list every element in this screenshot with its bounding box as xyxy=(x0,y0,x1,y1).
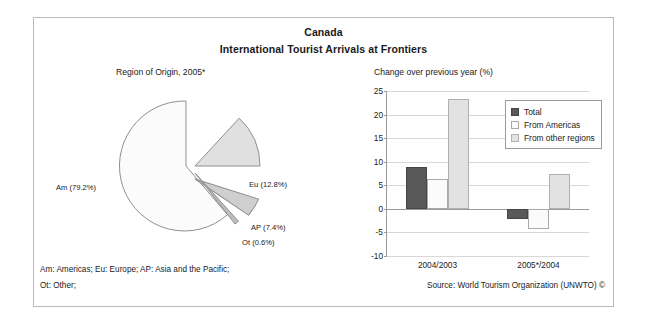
pie-chart-subtitle: Region of Origin, 2005* xyxy=(116,67,205,77)
pie-label-ap: AP (7.4%) xyxy=(251,223,285,232)
y-axis-tick-mark-20 xyxy=(384,115,387,116)
y-axis-tick-label-0: 0 xyxy=(378,204,383,214)
bar-chart: 2520151050-5-10 2004/20032005*/2004 Tota… xyxy=(353,91,608,276)
y-axis-tick-mark-15 xyxy=(384,138,387,139)
pie-label-am: Am (79.2%) xyxy=(56,183,96,192)
figure-frame: Canada International Tourist Arrivals at… xyxy=(33,17,614,307)
figure-title-subject: International Tourist Arrivals at Fronti… xyxy=(34,43,613,55)
y-axis-tick-mark-0 xyxy=(384,209,387,210)
y-axis-tick-mark-5 xyxy=(384,185,387,186)
pie-slice-eu xyxy=(195,118,260,166)
legend-item-from-americas: From Americas xyxy=(511,118,595,131)
bar-from-other-regions-2005--2004 xyxy=(549,174,570,209)
y-axis-tick-label-20: 20 xyxy=(374,110,383,120)
bar-total-2004-2003 xyxy=(406,167,427,208)
bar-chart-subtitle: Change over previous year (%) xyxy=(374,67,493,77)
x-axis-label-2004-2003: 2004/2003 xyxy=(418,260,457,270)
legend-swatch-from-other-regions xyxy=(511,134,519,142)
legend-swatch-total xyxy=(511,108,519,116)
y-axis-tick-label-25: 25 xyxy=(374,86,383,96)
footnote-abbreviations-line2: Ot: Other; xyxy=(40,281,76,290)
chart-legend: Total From Americas From other regions xyxy=(505,100,602,149)
gridline--5 xyxy=(387,232,589,233)
pie-svg xyxy=(119,95,269,237)
legend-swatch-from-americas xyxy=(511,121,519,129)
source-note: Source: World Tourism Organization (UNWT… xyxy=(427,281,605,290)
footnote-abbreviations-line1: Am: Americas; Eu: Europe; AP: Asia and t… xyxy=(40,265,229,274)
y-axis-tick-mark-25 xyxy=(384,91,387,92)
pie-label-ot: Ot (0.6%) xyxy=(242,238,275,247)
bar-from-americas-2005--2004 xyxy=(528,209,549,229)
y-axis-tick-label-15: 15 xyxy=(374,133,383,143)
y-axis-tick-label-5: 5 xyxy=(378,180,383,190)
legend-label-from-other-regions: From other regions xyxy=(524,133,595,143)
y-axis-tick-label--10: -10 xyxy=(371,251,383,261)
y-axis-tick-mark--10 xyxy=(384,256,387,257)
x-axis-label-2005--2004: 2005*/2004 xyxy=(517,260,559,270)
legend-item-from-other-regions: From other regions xyxy=(511,131,595,144)
gridline-25 xyxy=(387,91,589,92)
screenshot-canvas: Canada International Tourist Arrivals at… xyxy=(0,0,646,325)
legend-label-from-americas: From Americas xyxy=(524,120,580,130)
gridline-0 xyxy=(387,209,589,210)
y-axis-tick-mark--5 xyxy=(384,232,387,233)
bar-total-2005--2004 xyxy=(507,209,528,219)
figure-title-country: Canada xyxy=(34,26,613,38)
gridline--10 xyxy=(387,256,589,257)
bar-from-other-regions-2004-2003 xyxy=(448,99,469,208)
bar-from-americas-2004-2003 xyxy=(427,179,448,209)
y-axis-tick-label-10: 10 xyxy=(374,157,383,167)
pie-label-eu: Eu (12.8%) xyxy=(249,180,287,189)
legend-label-total: Total xyxy=(524,107,542,117)
legend-item-total: Total xyxy=(511,105,595,118)
y-axis-tick-mark-10 xyxy=(384,162,387,163)
y-axis-tick-label--5: -5 xyxy=(376,227,383,237)
gridline-10 xyxy=(387,162,589,163)
pie-graphic xyxy=(119,95,259,235)
pie-chart: Am (79.2%) Eu (12.8%) AP (7.4%) Ot (0.6%… xyxy=(44,83,334,248)
